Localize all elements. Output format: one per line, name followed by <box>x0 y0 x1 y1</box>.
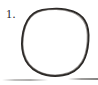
item-number-label: 1. <box>6 7 16 21</box>
scan-edge-smudge-left <box>2 79 48 81</box>
scanned-page: 1. <box>0 0 98 85</box>
scan-edge-smudge-right <box>68 78 98 80</box>
circle-stroke-path <box>22 9 89 76</box>
circle-stroke-overlay-path <box>23 9 87 75</box>
